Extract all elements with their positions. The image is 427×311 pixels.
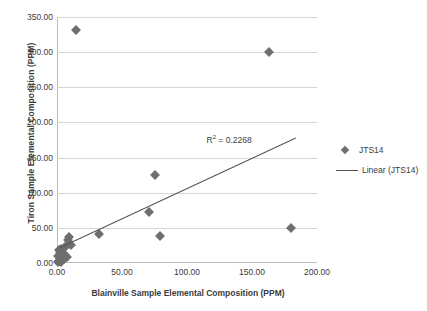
y-axis-ticks: 0.00 50.00 100.00 150.00 200.00 250.00 3…	[0, 17, 53, 263]
gridline-100	[57, 193, 317, 194]
y-tick-2: 100.00	[3, 188, 53, 198]
legend-item-trendline[interactable]: Linear (JTS14)	[336, 160, 426, 180]
diamond-marker-icon	[341, 146, 349, 154]
chart-legend: JTS14 Linear (JTS14)	[336, 140, 426, 180]
data-point[interactable]	[155, 231, 165, 241]
data-point[interactable]	[150, 170, 160, 180]
x-tick-1: 50.00	[92, 267, 152, 277]
x-axis-line	[57, 262, 317, 263]
y-axis-line	[57, 17, 58, 263]
gridline-50	[57, 228, 317, 229]
y-tick-5: 250.00	[3, 82, 53, 92]
y-tick-4: 200.00	[3, 117, 53, 127]
gridline-300	[57, 52, 317, 53]
x-tick-0: 0.00	[27, 267, 87, 277]
gridline-150	[57, 158, 317, 159]
legend-item-series[interactable]: JTS14	[336, 140, 426, 160]
scatter-chart: Tiron Sample Elemental Composition (PPM)…	[0, 0, 427, 311]
x-tick-3: 150.00	[222, 267, 282, 277]
x-tick-2: 100.00	[157, 267, 217, 277]
x-axis-title: Blainville Sample Elemental Composition …	[57, 288, 319, 298]
legend-label-trendline: Linear (JTS14)	[362, 165, 418, 175]
gridline-200	[57, 122, 317, 123]
x-tick-4: 200.00	[287, 267, 347, 277]
y-tick-6: 300.00	[3, 47, 53, 57]
r-squared-annotation: R2 = 0.2268	[207, 134, 252, 145]
line-marker-icon	[336, 170, 358, 171]
data-point[interactable]	[286, 223, 296, 233]
y-tick-7: 350.00	[3, 12, 53, 22]
data-point[interactable]	[71, 25, 81, 35]
plot-area	[57, 17, 317, 263]
data-point[interactable]	[144, 207, 154, 217]
data-point[interactable]	[264, 47, 274, 57]
y-tick-3: 150.00	[3, 153, 53, 163]
y-tick-1: 50.00	[3, 223, 53, 233]
gridline-350	[57, 17, 317, 18]
gridline-250	[57, 87, 317, 88]
legend-label-series: JTS14	[359, 145, 384, 155]
